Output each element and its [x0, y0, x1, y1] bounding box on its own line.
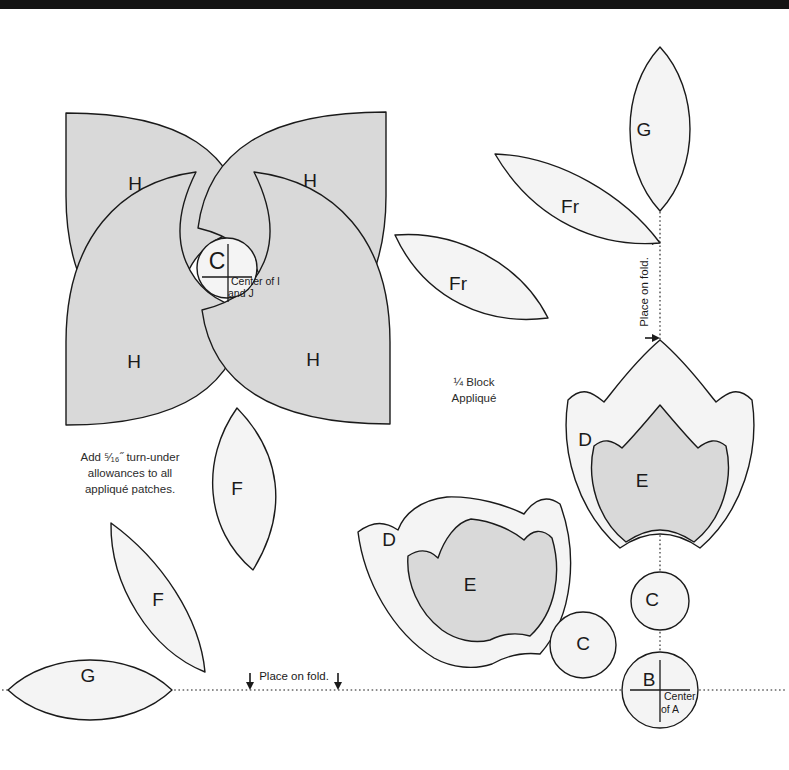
- label-d-lower-left: D: [382, 529, 396, 550]
- block-note-line1: ¼ Block: [454, 376, 495, 388]
- horizontal-fold-arrow-right: [334, 673, 342, 690]
- label-e-lower-left: E: [464, 574, 477, 595]
- label-f-lower: F: [152, 589, 164, 610]
- patch-fr-left[interactable]: [395, 234, 548, 319]
- c-center-note-line2: and J: [228, 287, 254, 299]
- c-center-note-line1: Center of I: [231, 275, 280, 287]
- horizontal-fold-arrow-left: [246, 673, 254, 690]
- b-corner-note-line1: Center: [664, 690, 696, 702]
- vertical-fold-arrow-bottom: [645, 334, 660, 342]
- label-f-upper: F: [231, 478, 243, 499]
- allowance-note-line2: allowances to all: [88, 467, 172, 479]
- label-g-bottom: G: [81, 665, 96, 686]
- label-g-top: G: [637, 119, 652, 140]
- patch-f-upper[interactable]: [213, 408, 276, 570]
- block-note-line2: Appliqué: [452, 392, 497, 404]
- pattern-sheet: Place on fold. Place on fold. H H H H C …: [0, 0, 789, 770]
- allowance-note-line3: appliqué patches.: [85, 483, 175, 495]
- label-e-upper-right: E: [636, 470, 649, 491]
- label-fr-left: Fr: [449, 273, 468, 294]
- vertical-fold-label: Place on fold.: [638, 257, 650, 327]
- allowance-note-line1: Add ⁵⁄₁₆˝ turn-under: [81, 451, 180, 463]
- pattern-canvas: Place on fold. Place on fold. H H H H C …: [0, 0, 789, 770]
- label-d-upper-right: D: [578, 429, 592, 450]
- label-c-upper-right: C: [645, 589, 659, 610]
- b-corner-note-line2: of A: [661, 703, 679, 715]
- label-c-standalone: C: [576, 633, 590, 654]
- patch-c-upper-right[interactable]: [631, 572, 689, 630]
- horizontal-fold-label: Place on fold.: [259, 670, 329, 682]
- label-b-corner: B: [643, 669, 656, 690]
- label-fr-right: Fr: [561, 196, 580, 217]
- label-h-bottom-right: H: [306, 349, 320, 370]
- label-h-bottom-left: H: [127, 351, 141, 372]
- label-c-center: C: [209, 248, 226, 274]
